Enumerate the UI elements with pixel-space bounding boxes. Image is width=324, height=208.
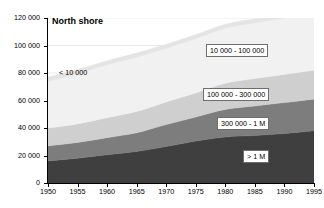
x-tick-label: 1965 (122, 188, 152, 196)
y-tick-label: 20 000 (18, 152, 40, 160)
x-tick-label: 1980 (210, 188, 240, 196)
y-axis-line (47, 18, 48, 184)
y-tick-label: 80 000 (18, 69, 40, 77)
x-tick-label: 1990 (269, 188, 299, 196)
series-annotation-label: 10 000 - 100 000 (206, 44, 268, 57)
series-annotation-label: 100 000 - 300 000 (203, 88, 269, 101)
x-axis-line (47, 183, 315, 184)
x-tick-label: 1975 (181, 188, 211, 196)
x-tick-label: 1970 (151, 188, 181, 196)
stacked-area-svg (48, 18, 314, 183)
series-annotation-label: < 10 000 (56, 67, 90, 78)
y-tick-mark (44, 128, 47, 129)
y-tick-mark (44, 18, 47, 19)
y-tick-mark (44, 46, 47, 47)
y-tick-label: 60 000 (18, 97, 40, 105)
chart-container: 020 00040 00060 00080 000100 000120 000 … (0, 0, 324, 208)
y-tick-label: 120 000 (14, 14, 40, 22)
plot-area (48, 18, 314, 183)
y-tick-mark (44, 156, 47, 157)
y-tick-mark (44, 73, 47, 74)
y-tick-mark (44, 101, 47, 102)
y-tick-label: 0 (36, 179, 40, 187)
chart-title: North shore (52, 16, 103, 27)
series-annotation-label: > 1 M (243, 150, 269, 163)
x-tick-label: 1985 (240, 188, 270, 196)
series-annotation-label: 300 000 - 1 M (217, 117, 269, 130)
x-tick-label: 1950 (33, 188, 63, 196)
x-tick-label: 1960 (92, 188, 122, 196)
y-tick-mark (44, 183, 47, 184)
y-tick-label: 40 000 (18, 124, 40, 132)
y-tick-label: 100 000 (14, 42, 40, 50)
x-tick-label: 1995 (299, 188, 324, 196)
x-tick-label: 1955 (63, 188, 93, 196)
